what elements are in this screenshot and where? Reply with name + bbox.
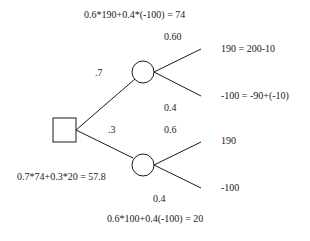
probability-label-lower-high: 0.6 — [164, 124, 177, 136]
chance-node-upper — [132, 61, 154, 83]
chance-node-lower — [132, 154, 154, 176]
payoff-label-upper-high: 190 = 200-10 — [221, 43, 275, 55]
probability-label-upper-high: 0.60 — [164, 31, 182, 43]
payoff-label-upper-low: -100 = -90+(-10) — [221, 90, 289, 102]
probability-label-branch-upper: .7 — [95, 67, 103, 79]
probability-label-branch-lower: .3 — [108, 124, 116, 136]
payoff-label-lower-low: -100 — [221, 182, 239, 194]
decision-node-square — [53, 118, 76, 142]
outcome-line-upper-high — [154, 49, 201, 72]
probability-label-upper-low: 0.4 — [164, 102, 177, 114]
formula-lower-expected-value: 0.6*100+0.4(-100) = 20 — [107, 213, 203, 225]
outcome-line-lower-high — [154, 142, 201, 165]
outcome-line-upper-low — [154, 72, 201, 96]
decision-tree-diagram: 0.6*190+0.4*(-100) = 74 0.60 0.4 190 = 2… — [0, 0, 310, 241]
formula-upper-expected-value: 0.6*190+0.4*(-100) = 74 — [84, 9, 185, 21]
payoff-label-lower-high: 190 — [221, 135, 236, 147]
outcome-line-lower-low — [154, 165, 201, 188]
branch-line-upper — [76, 79, 135, 130]
branch-line-lower — [76, 130, 133, 158]
probability-label-lower-low: 0.4 — [153, 193, 166, 205]
formula-root-expected-value: 0.7*74+0.3*20 = 57.8 — [17, 171, 106, 183]
